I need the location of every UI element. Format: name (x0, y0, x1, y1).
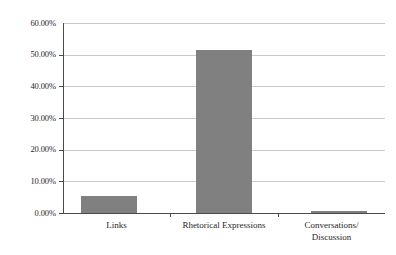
bar-links (81, 196, 137, 213)
y-tick-label-60: 60.00% (0, 19, 56, 28)
y-tick-mark-40 (59, 86, 63, 87)
x-axis-label-links: Links (63, 220, 170, 232)
x-axis-label-conversations-discussion: Conversations/ Discussion (278, 220, 385, 243)
x-tick-mark-1 (170, 213, 171, 217)
x-axis-line (63, 213, 385, 214)
y-tick-label-50: 50.00% (0, 50, 56, 59)
bar-rhetorical-expressions (196, 50, 252, 213)
y-tick-label-0: 0.00% (0, 209, 56, 218)
y-tick-mark-10 (59, 181, 63, 182)
y-tick-label-20: 20.00% (0, 145, 56, 154)
y-tick-label-30: 30.00% (0, 114, 56, 123)
y-tick-label-10: 10.00% (0, 177, 56, 186)
y-tick-mark-20 (59, 150, 63, 151)
plot-area (63, 23, 385, 213)
y-tick-mark-50 (59, 55, 63, 56)
gridline-60 (63, 23, 385, 24)
y-tick-mark-30 (59, 118, 63, 119)
y-tick-mark-0 (59, 213, 63, 214)
y-axis-line (63, 23, 64, 214)
x-tick-mark-2 (278, 213, 279, 217)
bar-chart: 60.00% 50.00% 40.00% 30.00% 20.00% 10.00… (0, 0, 396, 255)
y-tick-label-40: 40.00% (0, 82, 56, 91)
x-axis-label-rhetorical-expressions: Rhetorical Expressions (170, 220, 278, 232)
